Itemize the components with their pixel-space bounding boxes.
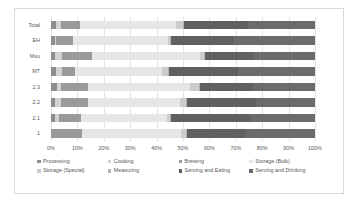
bar-segment[interactable] [51,129,82,138]
legend-label: Brewing [185,159,204,164]
legend-label: Measuring [114,168,139,173]
legend-item[interactable]: Storage (Special) [37,168,108,173]
x-axis-tick-label: 50% [178,145,189,151]
legend-swatch-icon [108,160,112,164]
x-axis-tick-label: 70% [230,145,241,151]
legend-item[interactable]: Brewing [179,159,250,164]
bar-segment[interactable] [56,36,73,45]
legend-label: Serving and Eating [185,168,231,173]
bar-segment[interactable] [88,98,179,107]
y-axis-tick-label: Total [6,22,40,28]
bar-segment[interactable] [81,114,167,123]
bar-segment[interactable] [73,36,168,45]
bar-row[interactable] [51,114,315,123]
bar-row[interactable] [51,21,315,30]
y-axis-tick-label: 2.2 [6,99,40,105]
bar-segment[interactable] [92,52,200,61]
bar-segment[interactable] [171,36,234,45]
legend-label: Storage (Special) [43,168,85,173]
y-axis-tick-label: MT [6,68,40,74]
legend-item[interactable]: Serving and Eating [179,168,250,173]
bar-segment[interactable] [88,83,190,92]
y-axis-tick-label: EH [6,37,40,43]
y-axis-tick-label: 1 [6,130,40,136]
legend-swatch-icon [179,160,183,164]
x-axis-tick-label: 20% [98,145,109,151]
bar-segment[interactable] [245,129,315,138]
bar-row[interactable] [51,129,315,138]
bar-segment[interactable] [190,83,198,92]
bar-segment[interactable] [205,52,253,61]
legend-swatch-icon [179,169,183,173]
chart-legend: ProcessingCookingBrewingStorage (Bulk)St… [37,159,327,178]
plot-area [51,17,315,141]
bar-segment[interactable] [61,21,80,30]
x-axis-tick-label: 10% [72,145,83,151]
x-axis-tick-label: 100% [308,145,322,151]
bar-segment[interactable] [238,67,315,76]
legend-label: Cooking [114,159,134,164]
x-axis-tick-label: 0% [47,145,55,151]
bar-row[interactable] [51,98,315,107]
bar-segment[interactable] [82,129,181,138]
bar-row[interactable] [51,52,315,61]
bar-segment[interactable] [253,52,315,61]
chart-container: TotalEHMsuMT2.32.22.11 0%10%20%30%40%50%… [14,8,344,194]
legend-swatch-icon [249,169,253,173]
x-axis-tick-label: 90% [283,145,294,151]
legend-item[interactable]: Serving and Drinking [249,168,327,173]
bar-segment[interactable] [184,21,247,30]
bar-segment[interactable] [253,83,315,92]
bar-row[interactable] [51,67,315,76]
bar-segment[interactable] [80,21,176,30]
legend-row: ProcessingCookingBrewingStorage (Bulk) [37,159,327,164]
x-axis-tick-label: 30% [125,145,136,151]
legend-swatch-icon [37,160,41,164]
legend-swatch-icon [108,169,112,173]
bar-segment[interactable] [234,36,315,45]
bar-segment[interactable] [187,98,256,107]
bar-segment[interactable] [171,114,250,123]
y-axis-tick-label: 2.3 [6,84,40,90]
legend-item[interactable]: Processing [37,159,108,164]
legend-label: Processing [43,159,70,164]
y-axis-tick-label: Msu [6,53,40,59]
legend-swatch-icon [37,169,41,173]
legend-label: Storage (Bulk) [255,159,289,164]
legend-swatch-icon [249,160,253,164]
x-axis-tick-label: 80% [257,145,268,151]
y-axis-tick-label: 2.1 [6,115,40,121]
bar-segment[interactable] [62,67,76,76]
x-axis-tick-label: 40% [151,145,162,151]
bar-segment[interactable] [75,67,162,76]
bar-segment[interactable] [61,83,88,92]
legend-item[interactable]: Storage (Bulk) [249,159,327,164]
bar-row[interactable] [51,83,315,92]
bar-row[interactable] [51,36,315,45]
bar-segment[interactable] [55,52,62,61]
bar-segment[interactable] [248,21,315,30]
legend-item[interactable]: Measuring [108,168,179,173]
x-axis-tick-label: 60% [204,145,215,151]
bar-segment[interactable] [59,114,81,123]
bar-segment[interactable] [169,67,238,76]
bar-segment[interactable] [61,98,89,107]
legend-item[interactable]: Cooking [108,159,179,164]
bar-segment[interactable] [200,83,253,92]
bar-segment[interactable] [250,114,315,123]
bar-segment[interactable] [256,98,315,107]
bar-segment[interactable] [62,52,92,61]
bar-segment[interactable] [187,129,245,138]
legend-row: Storage (Special)MeasuringServing and Ea… [37,168,327,173]
gridline [315,17,316,141]
legend-label: Serving and Drinking [255,168,305,173]
